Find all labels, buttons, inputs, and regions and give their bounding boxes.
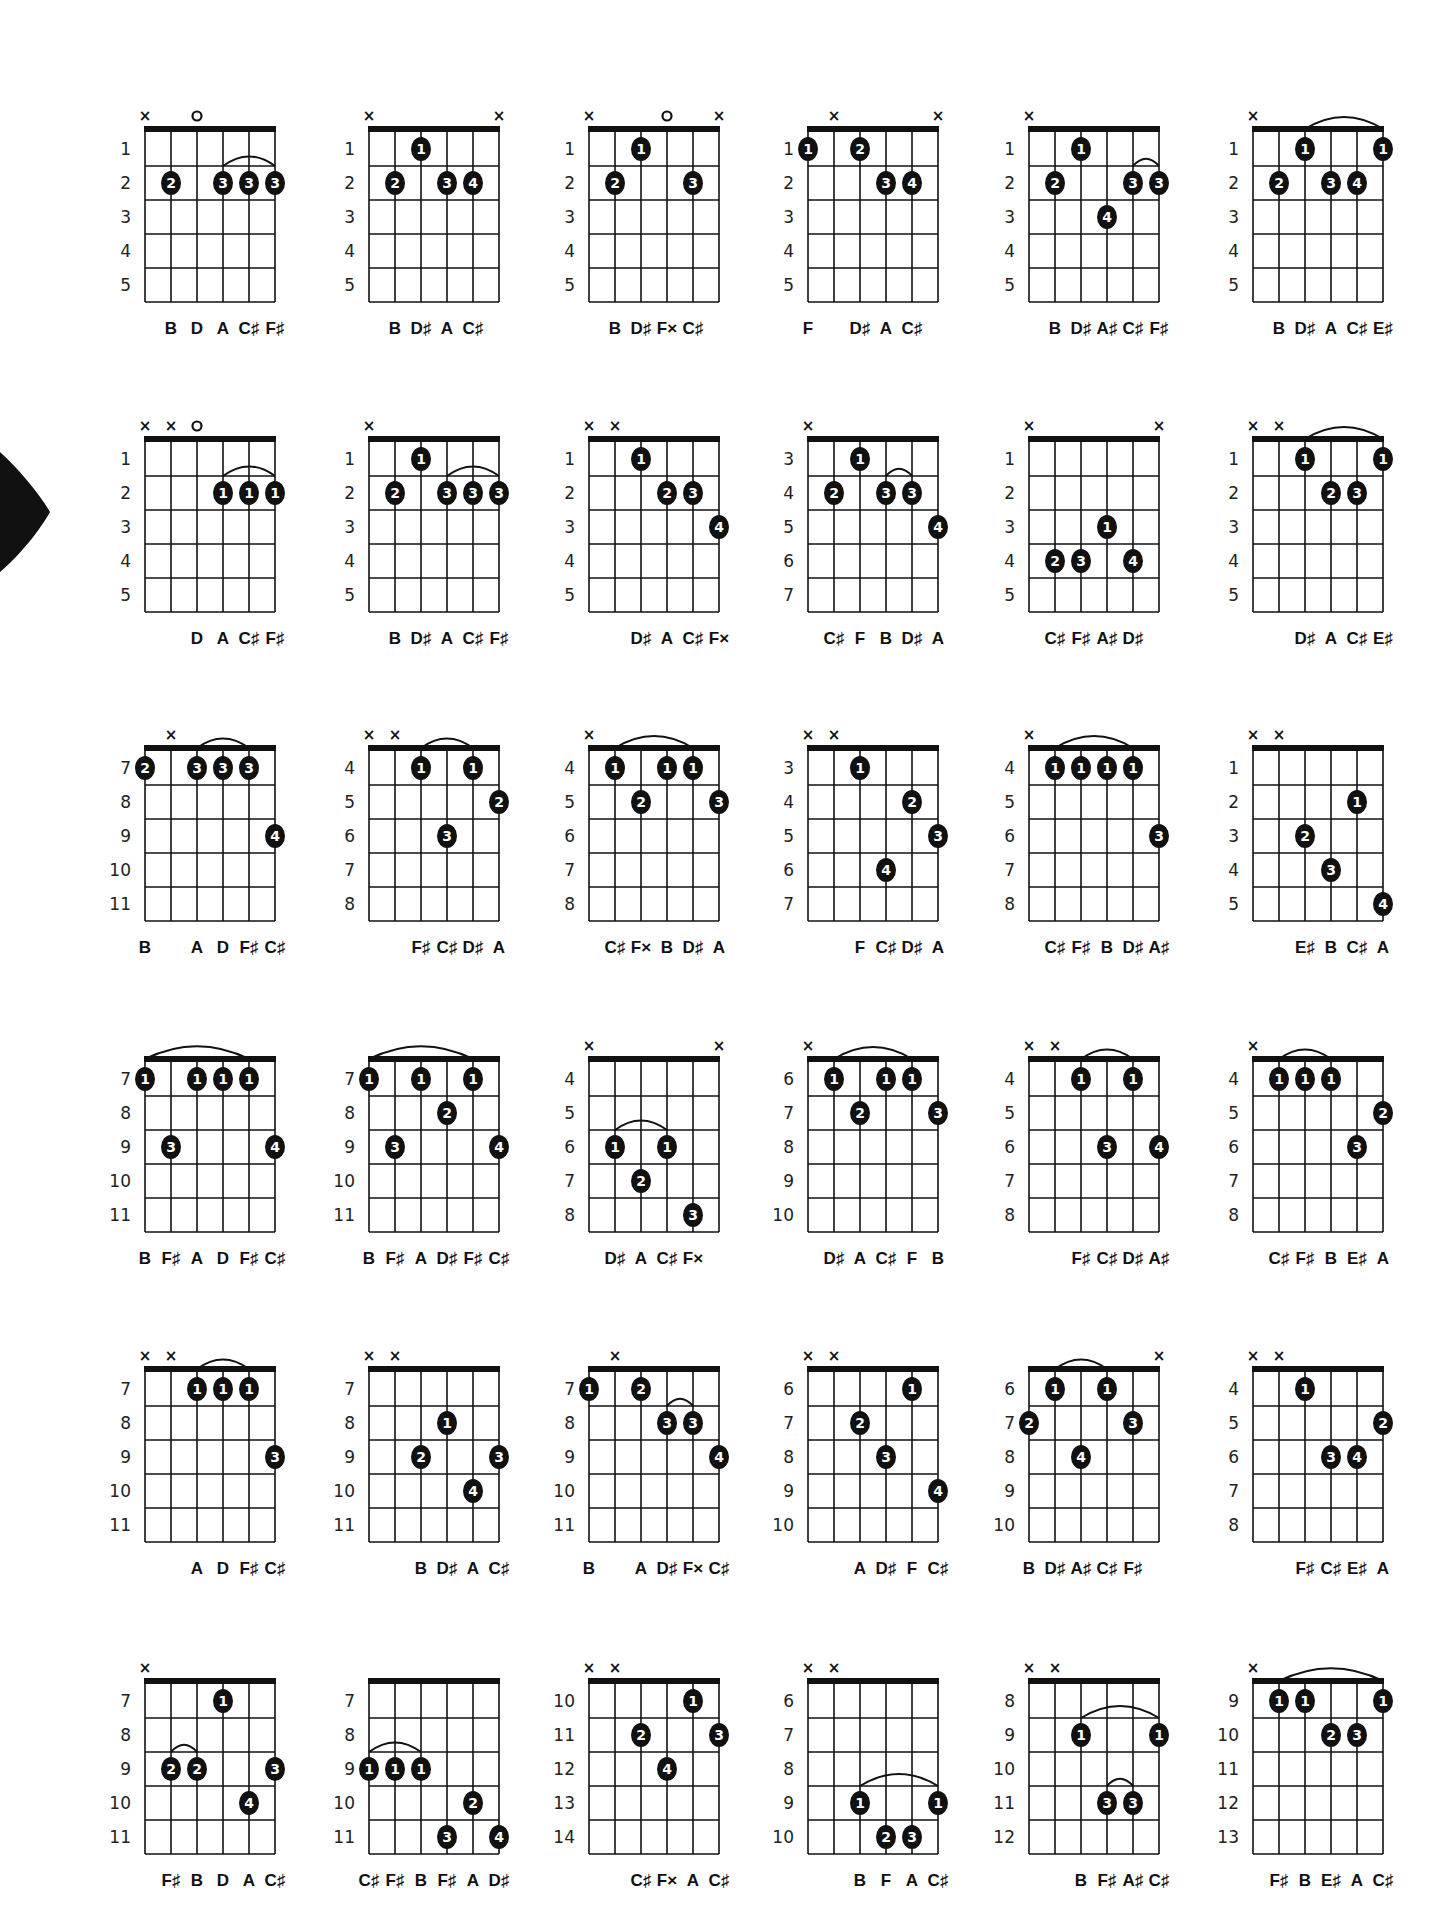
fret-number: 11 bbox=[333, 1515, 355, 1535]
chord-diagram: 678910×11234BD♯A♯C♯F♯ bbox=[989, 1342, 1199, 1622]
finger-dot: 3 bbox=[928, 1101, 948, 1125]
finger-number: 1 bbox=[1300, 1693, 1310, 1709]
note-name: D♯ bbox=[489, 1871, 510, 1890]
note-name: D♯ bbox=[902, 629, 923, 648]
finger-dot: 2 bbox=[824, 481, 844, 505]
finger-dot: 1 bbox=[928, 1791, 948, 1815]
finger-dot: 1 bbox=[239, 481, 259, 505]
finger-number: 2 bbox=[855, 141, 865, 157]
chord-diagram: 45678××1123F♯C♯D♯A bbox=[329, 721, 539, 1001]
note-name: C♯ bbox=[1097, 1249, 1118, 1268]
muted-string-icon: × bbox=[828, 1347, 841, 1365]
finger-dot: 1 bbox=[1295, 137, 1315, 161]
chord-diagram: 7891011××1113ADF♯C♯ bbox=[105, 1342, 315, 1622]
finger-number: 3 bbox=[881, 1449, 891, 1465]
finger-number: 4 bbox=[270, 1139, 280, 1155]
finger-dot: 1 bbox=[411, 756, 431, 780]
finger-number: 3 bbox=[1326, 175, 1336, 191]
muted-string-icon: × bbox=[363, 417, 376, 435]
fret-number: 4 bbox=[120, 241, 131, 261]
note-name: E♯ bbox=[1347, 1249, 1367, 1268]
fret-number: 6 bbox=[344, 826, 355, 846]
fret-number: 3 bbox=[344, 207, 355, 227]
chord-diagram: 7891011×12234F♯BDAC♯ bbox=[105, 1654, 315, 1923]
note-name: A♯ bbox=[1123, 1871, 1144, 1890]
finger-dot: 1 bbox=[1071, 1723, 1091, 1747]
chord-diagram: 45678××1134F♯C♯D♯A♯ bbox=[989, 1032, 1199, 1312]
fret-number: 4 bbox=[783, 483, 794, 503]
finger-dot: 2 bbox=[850, 137, 870, 161]
finger-dot: 2 bbox=[1045, 171, 1065, 195]
nut-bar bbox=[588, 1056, 720, 1062]
finger-number: 1 bbox=[218, 1693, 228, 1709]
note-name: C♯ bbox=[239, 629, 260, 648]
chord-diagram: 34567××1234FC♯D♯A bbox=[768, 721, 978, 1001]
note-name: B bbox=[1325, 938, 1337, 957]
fret-number: 13 bbox=[553, 1793, 575, 1813]
finger-dot: 2 bbox=[631, 1377, 651, 1401]
note-name: A bbox=[493, 938, 505, 957]
finger-number: 1 bbox=[636, 141, 646, 157]
note-name: B bbox=[1273, 319, 1285, 338]
finger-dot: 3 bbox=[902, 1825, 922, 1849]
finger-dot: 1 bbox=[1295, 1067, 1315, 1091]
finger-dot: 4 bbox=[709, 515, 729, 539]
fret-number: 1 bbox=[120, 139, 131, 159]
finger-dot: 1 bbox=[1269, 1689, 1289, 1713]
note-name: D♯ bbox=[411, 629, 432, 648]
note-name: B bbox=[1075, 1871, 1087, 1890]
finger-dot: 2 bbox=[385, 171, 405, 195]
note-name: A bbox=[1377, 1559, 1389, 1578]
finger-number: 3 bbox=[244, 175, 254, 191]
barre-arc bbox=[860, 1774, 938, 1786]
fret-number: 9 bbox=[783, 1481, 794, 1501]
finger-dot: 3 bbox=[187, 756, 207, 780]
finger-number: 2 bbox=[610, 175, 620, 191]
fret-number: 4 bbox=[1228, 1379, 1239, 1399]
finger-number: 3 bbox=[494, 1449, 504, 1465]
fret-number: 9 bbox=[783, 1793, 794, 1813]
finger-dot: 3 bbox=[876, 171, 896, 195]
finger-dot: 4 bbox=[265, 824, 285, 848]
note-name: E♯ bbox=[1347, 1559, 1367, 1578]
note-name: F♯ bbox=[266, 319, 285, 338]
finger-number: 3 bbox=[662, 1415, 672, 1431]
finger-number: 1 bbox=[803, 141, 813, 157]
finger-dot: 4 bbox=[928, 1479, 948, 1503]
note-name: F♯ bbox=[1124, 1559, 1143, 1578]
finger-number: 1 bbox=[1300, 451, 1310, 467]
chord-diagram: 678910××1123BFAC♯ bbox=[768, 1654, 978, 1923]
fret-number: 4 bbox=[564, 1069, 575, 1089]
note-name: F♯ bbox=[412, 938, 431, 957]
barre-arc bbox=[171, 1745, 197, 1752]
fret-number: 9 bbox=[344, 1447, 355, 1467]
finger-number: 3 bbox=[1326, 1449, 1336, 1465]
note-name: A bbox=[1325, 629, 1337, 648]
note-name: A bbox=[1325, 319, 1337, 338]
finger-number: 2 bbox=[855, 1105, 865, 1121]
muted-string-icon: × bbox=[1247, 1347, 1260, 1365]
finger-number: 3 bbox=[688, 1415, 698, 1431]
finger-number: 1 bbox=[468, 1071, 478, 1087]
finger-number: 1 bbox=[192, 1381, 202, 1397]
fret-number: 2 bbox=[120, 173, 131, 193]
fret-number: 1 bbox=[120, 449, 131, 469]
fret-number: 6 bbox=[1228, 1137, 1239, 1157]
open-string-icon bbox=[663, 112, 672, 121]
finger-number: 3 bbox=[1352, 1727, 1362, 1743]
note-name: B bbox=[1299, 1871, 1311, 1890]
finger-dot: 1 bbox=[1097, 1377, 1117, 1401]
note-name: B bbox=[1325, 1249, 1337, 1268]
note-name: F♯ bbox=[1296, 1559, 1315, 1578]
note-name: F♯ bbox=[162, 1871, 181, 1890]
fret-number: 9 bbox=[120, 1447, 131, 1467]
finger-number: 3 bbox=[688, 1207, 698, 1223]
muted-string-icon: × bbox=[583, 1037, 596, 1055]
fret-number: 1 bbox=[564, 139, 575, 159]
finger-dot: 3 bbox=[463, 481, 483, 505]
note-name: A bbox=[243, 1871, 255, 1890]
finger-dot: 1 bbox=[213, 481, 233, 505]
finger-dot: 3 bbox=[683, 1411, 703, 1435]
fret-number: 12 bbox=[993, 1827, 1015, 1847]
fret-number: 5 bbox=[1004, 275, 1015, 295]
